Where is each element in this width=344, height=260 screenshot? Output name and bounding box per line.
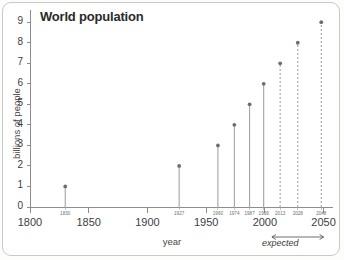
y-tick-label: 2 <box>9 159 23 170</box>
y-tick-label: 4 <box>9 118 23 129</box>
milestone-year-label: 1927 <box>168 211 190 216</box>
y-tick-label: 6 <box>9 77 23 88</box>
data-point-marker <box>296 41 300 45</box>
data-point-marker <box>278 61 282 65</box>
x-tick-label: 1900 <box>127 216 167 228</box>
y-tick-label: 5 <box>9 97 23 108</box>
data-point-marker <box>63 185 67 189</box>
chart-figure: World population billions of people year… <box>0 0 344 260</box>
data-point-marker <box>216 144 220 148</box>
expected-arrow <box>272 235 324 240</box>
y-tick-label: 3 <box>9 138 23 149</box>
data-point-marker <box>177 164 181 168</box>
milestone-year-label: 1830 <box>54 211 76 216</box>
x-tick-label: 1800 <box>10 216 50 228</box>
x-tick-label: 2000 <box>245 216 285 228</box>
data-point-marker <box>319 20 323 24</box>
plot-area <box>0 0 344 260</box>
milestone-year-label: 2048 <box>310 211 332 216</box>
y-tick-label: 8 <box>9 36 23 47</box>
y-tick-label: 9 <box>9 15 23 26</box>
x-tick-label: 1950 <box>186 216 226 228</box>
x-tick-label: 1850 <box>69 216 109 228</box>
y-tick-label: 0 <box>9 200 23 211</box>
y-tick-label: 1 <box>9 179 23 190</box>
data-point-marker <box>248 102 252 106</box>
y-tick-label: 7 <box>9 56 23 67</box>
data-point-marker <box>232 123 236 127</box>
x-tick-label: 2050 <box>304 216 344 228</box>
data-point-marker <box>262 82 266 86</box>
milestone-year-label: 2028 <box>287 211 309 216</box>
